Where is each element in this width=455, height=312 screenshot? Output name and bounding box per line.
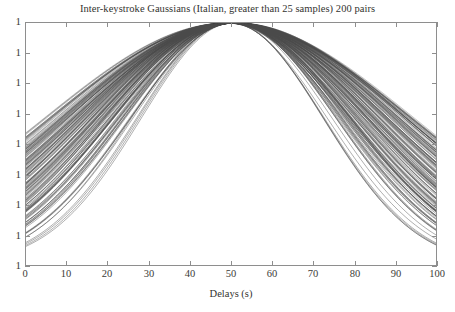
x-tick-label: 70	[293, 268, 333, 280]
y-tick-mark-right	[432, 114, 437, 115]
x-tick-mark	[396, 261, 397, 266]
y-tick-label: 1	[0, 77, 21, 88]
x-tick-label: 0	[5, 268, 45, 280]
chart-figure: Inter-keystroke Gaussians (Italian, grea…	[0, 0, 455, 312]
y-tick-label: 1	[0, 199, 21, 210]
x-tick-mark	[149, 261, 150, 266]
x-tick-mark-top	[396, 22, 397, 27]
y-tick-label: 1	[0, 230, 21, 241]
x-tick-label: 100	[417, 268, 455, 280]
x-tick-label: 20	[87, 268, 127, 280]
x-tick-label: 30	[129, 268, 169, 280]
y-tick-mark-right	[432, 205, 437, 206]
x-tick-mark	[437, 261, 438, 266]
x-tick-mark	[231, 261, 232, 266]
x-tick-mark-top	[355, 22, 356, 27]
x-tick-mark-top	[25, 22, 26, 27]
y-tick-mark	[25, 205, 30, 206]
x-tick-mark-top	[272, 22, 273, 27]
y-tick-mark-right	[432, 83, 437, 84]
y-tick-label: 1	[0, 108, 21, 119]
plot-area	[25, 22, 437, 266]
y-tick-mark-right	[432, 236, 437, 237]
y-tick-mark	[25, 175, 30, 176]
y-tick-mark-right	[432, 175, 437, 176]
x-tick-mark	[355, 261, 356, 266]
x-tick-mark-top	[190, 22, 191, 27]
x-tick-mark	[190, 261, 191, 266]
x-tick-mark-top	[231, 22, 232, 27]
x-tick-mark	[272, 261, 273, 266]
x-tick-mark	[66, 261, 67, 266]
x-tick-label: 50	[211, 268, 251, 280]
y-tick-mark	[25, 53, 30, 54]
y-tick-label: 1	[0, 169, 21, 180]
x-tick-label: 90	[376, 268, 416, 280]
y-tick-mark-right	[432, 53, 437, 54]
x-tick-mark	[107, 261, 108, 266]
y-tick-mark-right	[432, 266, 437, 267]
x-tick-label: 10	[46, 268, 86, 280]
x-tick-mark	[313, 261, 314, 266]
y-tick-mark	[25, 114, 30, 115]
x-tick-label: 80	[335, 268, 375, 280]
x-tick-label: 60	[252, 268, 292, 280]
y-tick-label: 1	[0, 47, 21, 58]
x-axis-title: Delays (s)	[25, 288, 437, 300]
y-tick-mark-right	[432, 144, 437, 145]
y-tick-label: 1	[0, 138, 21, 149]
gaussian-curves	[26, 23, 436, 265]
x-tick-mark-top	[313, 22, 314, 27]
x-tick-mark-top	[66, 22, 67, 27]
y-tick-mark	[25, 83, 30, 84]
x-tick-mark	[25, 261, 26, 266]
y-tick-label: 1	[0, 16, 21, 27]
y-tick-mark	[25, 236, 30, 237]
y-tick-mark	[25, 144, 30, 145]
page-title: Inter-keystroke Gaussians (Italian, grea…	[0, 2, 455, 15]
x-tick-mark-top	[149, 22, 150, 27]
x-tick-label: 40	[170, 268, 210, 280]
x-tick-mark-top	[437, 22, 438, 27]
x-tick-mark-top	[107, 22, 108, 27]
y-tick-mark	[25, 266, 30, 267]
